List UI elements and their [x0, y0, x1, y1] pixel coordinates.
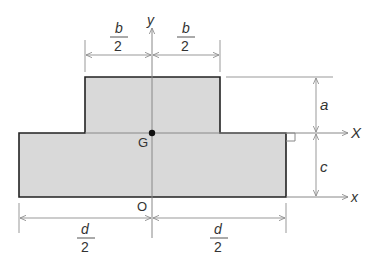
right-angle-mark — [286, 133, 295, 141]
svg-text:d: d — [214, 221, 223, 237]
d-half-label-left: d 2 — [77, 221, 95, 255]
svg-text:2: 2 — [114, 38, 122, 54]
c-label: c — [320, 158, 328, 175]
svg-text:b: b — [115, 20, 123, 36]
svg-text:2: 2 — [214, 239, 222, 255]
b-half-label-left: b 2 — [110, 20, 128, 54]
X-axis-label: X — [350, 124, 362, 141]
svg-text:b: b — [182, 20, 190, 36]
cross-section-diagram: G O y X x b 2 b 2 a c d 2 d 2 — [0, 0, 374, 266]
x-axis-label: x — [350, 189, 359, 205]
svg-text:d: d — [81, 221, 90, 237]
origin-label: O — [137, 199, 147, 214]
b-half-label-right: b 2 — [177, 20, 195, 54]
centroid-point — [149, 130, 155, 136]
a-label: a — [320, 96, 328, 113]
y-axis-label: y — [146, 12, 155, 28]
svg-text:2: 2 — [81, 239, 89, 255]
d-half-label-right: d 2 — [210, 221, 228, 255]
centroid-label: G — [138, 135, 148, 150]
svg-text:2: 2 — [181, 38, 189, 54]
